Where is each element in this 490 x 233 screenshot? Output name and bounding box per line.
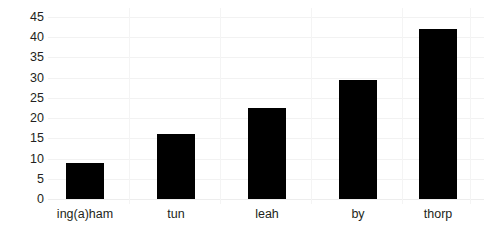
y-axis-tick-label: 20 bbox=[4, 112, 44, 125]
y-axis-tick-label: 10 bbox=[4, 152, 44, 165]
bar-chart: 051015202530354045 ing(a)hamtunleahbytho… bbox=[0, 0, 490, 233]
y-axis-tick-label: 40 bbox=[4, 31, 44, 44]
plot-area bbox=[48, 8, 484, 204]
bar bbox=[248, 108, 286, 199]
x-axis-tick-label: by bbox=[351, 208, 364, 221]
y-axis-tick-label: 35 bbox=[4, 51, 44, 64]
bar bbox=[419, 29, 457, 199]
y-axis-tick-label: 15 bbox=[4, 132, 44, 145]
bar bbox=[157, 134, 195, 199]
y-axis-tick-labels: 051015202530354045 bbox=[0, 8, 44, 204]
y-axis-tick-label: 5 bbox=[4, 173, 44, 186]
bar bbox=[66, 163, 104, 199]
y-axis-tick-label: 25 bbox=[4, 92, 44, 105]
x-axis-tick-label: leah bbox=[255, 208, 279, 221]
y-axis-tick-label: 0 bbox=[4, 193, 44, 206]
y-axis-tick-label: 30 bbox=[4, 71, 44, 84]
x-axis-tick-labels: ing(a)hamtunleahbythorp bbox=[0, 208, 490, 228]
x-axis-tick-label: tun bbox=[167, 208, 184, 221]
x-axis-tick-label: thorp bbox=[424, 208, 453, 221]
bar bbox=[339, 80, 377, 199]
y-axis-tick-label: 45 bbox=[4, 11, 44, 24]
x-axis-tick-label: ing(a)ham bbox=[57, 208, 113, 221]
